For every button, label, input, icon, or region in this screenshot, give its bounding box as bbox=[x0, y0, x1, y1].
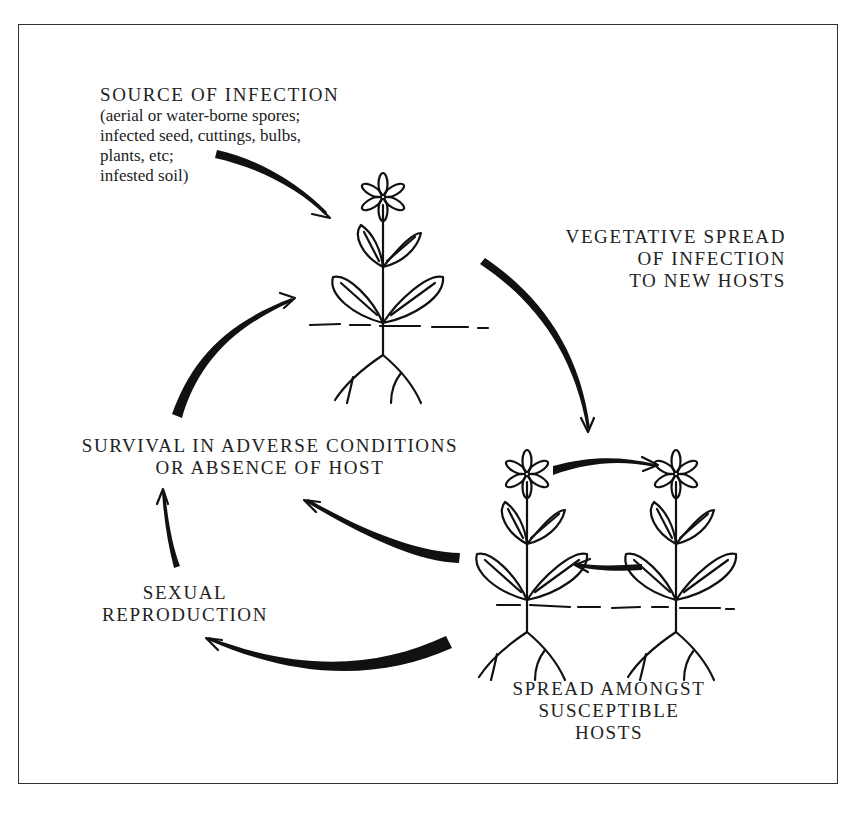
sexual-line-1: SEXUAL bbox=[100, 582, 270, 604]
source-of-infection-label: SOURCE OF INFECTION (aerial or water-bor… bbox=[100, 84, 339, 186]
source-detail-4: infested soil) bbox=[100, 166, 339, 186]
survival-line-2: OR ABSENCE OF HOST bbox=[50, 457, 490, 479]
arrow-spread-left bbox=[575, 559, 642, 572]
sexual-reproduction-label: SEXUAL REPRODUCTION bbox=[100, 582, 270, 626]
infected-plant-left-illustration bbox=[476, 450, 587, 680]
sexual-line-2: REPRODUCTION bbox=[100, 604, 270, 626]
source-detail-2: infected seed, cuttings, bulbs, bbox=[100, 126, 339, 146]
arrow-to-sexual-reproduction bbox=[206, 636, 452, 671]
arrow-survival-to-host bbox=[172, 293, 295, 418]
soil-line-lower bbox=[497, 605, 734, 609]
arrow-to-survival bbox=[304, 499, 460, 563]
spread-line-2: SUSCEPTIBLE bbox=[494, 700, 724, 722]
survival-label: SURVIVAL IN ADVERSE CONDITIONS OR ABSENC… bbox=[50, 435, 490, 479]
vegetative-line-2: OF INFECTION bbox=[520, 248, 786, 270]
survival-line-1: SURVIVAL IN ADVERSE CONDITIONS bbox=[50, 435, 490, 457]
spread-line-3: HOSTS bbox=[494, 722, 724, 744]
source-detail-3: plants, etc; bbox=[100, 146, 339, 166]
source-detail-1: (aerial or water-borne spores; bbox=[100, 106, 339, 126]
soil-line bbox=[310, 324, 488, 328]
vegetative-line-3: TO NEW HOSTS bbox=[520, 270, 786, 292]
source-heading: SOURCE OF INFECTION bbox=[100, 84, 339, 106]
vegetative-spread-label: VEGETATIVE SPREAD OF INFECTION TO NEW HO… bbox=[520, 226, 786, 292]
arrow-sexual-to-survival bbox=[157, 489, 180, 568]
arrow-spread-right bbox=[553, 457, 658, 475]
vegetative-line-1: VEGETATIVE SPREAD bbox=[520, 226, 786, 248]
spread-amongst-hosts-label: SPREAD AMONGST SUSCEPTIBLE HOSTS bbox=[494, 678, 724, 744]
plant-host-illustration bbox=[332, 173, 443, 403]
spread-line-1: SPREAD AMONGST bbox=[494, 678, 724, 700]
